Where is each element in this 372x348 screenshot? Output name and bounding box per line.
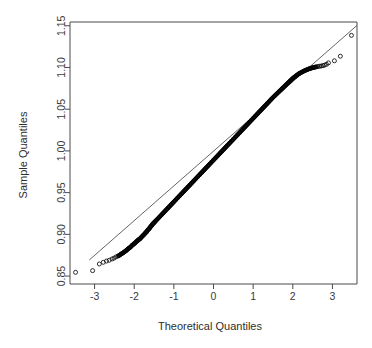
x-tick-label-2: -1 xyxy=(169,290,178,302)
qq-plot-figure: 0.850.900.951.001.051.101.15 -3-2-10123 … xyxy=(0,0,372,348)
y-tick-label-6: 1.15 xyxy=(55,15,67,36)
x-axis-title: Theoretical Quantiles xyxy=(158,320,262,332)
x-tick-label-4: 1 xyxy=(250,290,256,302)
y-axis-title: Sample Quantiles xyxy=(17,111,29,198)
x-tick-label-5: 2 xyxy=(290,290,296,302)
qq-plot-canvas: 0.850.900.951.001.051.101.15 -3-2-10123 … xyxy=(0,0,372,348)
figure-background xyxy=(0,0,372,348)
x-tick-label-0: -3 xyxy=(90,290,99,302)
y-tick-label-0: 0.85 xyxy=(55,266,67,287)
y-tick-label-5: 1.10 xyxy=(55,57,67,78)
x-tick-label-1: -2 xyxy=(130,290,139,302)
y-tick-label-4: 1.05 xyxy=(55,99,67,120)
y-tick-label-2: 0.95 xyxy=(55,182,67,203)
y-tick-label-1: 0.90 xyxy=(55,224,67,245)
x-tick-label-6: 3 xyxy=(330,290,336,302)
x-tick-label-3: 0 xyxy=(211,290,217,302)
y-tick-label-3: 1.00 xyxy=(55,141,67,162)
